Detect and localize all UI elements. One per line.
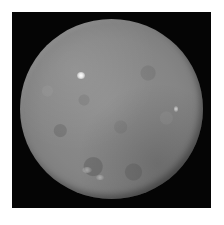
bright-spot-secondary	[174, 106, 178, 112]
black-frame	[12, 12, 211, 208]
crater-rim	[96, 175, 104, 180]
bright-spot-main	[77, 72, 85, 79]
crater-rim	[82, 167, 92, 173]
